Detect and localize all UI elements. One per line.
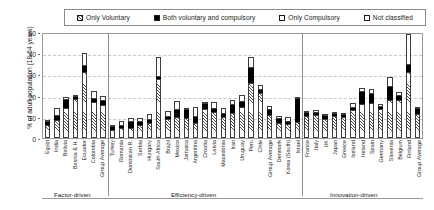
stacked-bar[interactable] (350, 103, 356, 138)
stacked-bar[interactable] (156, 57, 162, 138)
stacked-bar[interactable] (54, 108, 60, 138)
bar-cell (108, 34, 117, 138)
stacked-bar[interactable] (221, 108, 227, 138)
x-tick-cell: Chile (256, 140, 265, 184)
bar-cell (219, 34, 228, 138)
stacked-bar[interactable] (387, 77, 393, 138)
stacked-bar[interactable] (378, 104, 384, 138)
bar-cell (200, 34, 209, 138)
bar-segment-voluntary (82, 72, 88, 138)
stacked-bar[interactable] (341, 113, 347, 138)
x-tick-cell: Jamaica (181, 140, 190, 184)
x-tick-cell: South Africa (154, 140, 163, 184)
x-tick-label: Belgium (397, 140, 403, 160)
bar-segment-both (295, 99, 301, 122)
bar-segment-voluntary (174, 117, 180, 138)
stacked-bar[interactable] (322, 114, 328, 138)
stacked-bar[interactable] (137, 118, 143, 138)
x-tick-label: Hungary (146, 140, 152, 161)
bar-segment-notclass (82, 53, 88, 66)
legend-item-both[interactable]: Both voluntary and compulsory (154, 14, 255, 21)
bar-segment-voluntary (350, 110, 356, 138)
stacked-bar[interactable] (147, 114, 153, 138)
x-tick-label: Colombia (90, 140, 96, 163)
stacked-bar[interactable] (415, 107, 421, 138)
stacked-bar[interactable] (258, 85, 264, 138)
stacked-bar[interactable] (45, 120, 51, 138)
bar-segment-both (184, 110, 190, 117)
stacked-bar[interactable] (230, 100, 236, 138)
bar-segment-voluntary (239, 107, 245, 138)
bar-segment-voluntary (54, 120, 60, 138)
x-tick-cell: Japan (330, 140, 339, 184)
stacked-bar[interactable] (184, 108, 190, 138)
x-tick-cell: Israel (293, 140, 302, 184)
x-tick-cell: Korea (South) (284, 140, 293, 184)
stacked-bar[interactable] (82, 53, 88, 138)
stacked-bar[interactable] (248, 57, 254, 138)
stacked-bar[interactable] (285, 117, 291, 138)
x-tick-label: Romania (118, 140, 124, 162)
bar-cell (358, 34, 367, 138)
x-tick-label: Greece (341, 140, 347, 158)
stacked-bar[interactable] (174, 101, 180, 138)
bar-segment-voluntary (193, 123, 199, 138)
x-tick-cell: Uruguay (237, 140, 246, 184)
empty-square-icon (364, 15, 370, 21)
x-tick-cell: Group Average (98, 140, 107, 184)
y-tick-mark (38, 54, 41, 55)
bar-cell (210, 34, 219, 138)
legend-item-voluntary[interactable]: Only Voluntary (77, 14, 130, 21)
bar-cell (163, 34, 172, 138)
stacked-bar[interactable] (110, 125, 116, 138)
bar-cell (330, 34, 339, 138)
stacked-bar[interactable] (193, 107, 199, 138)
x-tick-label: Bosnia & H. (72, 140, 78, 169)
bar-cell (385, 34, 394, 138)
x-tick-label: Chile (257, 140, 263, 153)
stacked-bar[interactable] (239, 95, 245, 138)
y-axis-ticks: 01020304050 (0, 33, 40, 139)
x-tick-cell: Mexico (172, 140, 181, 184)
x-tick-cell: Belgium (395, 140, 404, 184)
stacked-bar[interactable] (295, 97, 301, 138)
stacked-bar[interactable] (165, 111, 171, 138)
stacked-bar[interactable] (73, 95, 79, 138)
stacked-bar[interactable] (276, 116, 282, 138)
stacked-bar[interactable] (406, 34, 412, 138)
stacked-bar[interactable] (202, 102, 208, 138)
bar-segment-voluntary (313, 115, 319, 138)
stacked-bar[interactable] (63, 97, 69, 138)
stacked-bar[interactable] (313, 110, 319, 138)
y-tick-label: 30 (29, 72, 36, 79)
legend-item-notclass[interactable]: Not classified (364, 14, 413, 21)
stacked-bar[interactable] (359, 88, 365, 138)
x-tick-label: Dominican R. (127, 140, 133, 173)
legend-item-compulsory[interactable]: Only Compulsory (279, 14, 340, 21)
stacked-bar[interactable] (369, 89, 375, 138)
stacked-bar[interactable] (128, 118, 134, 138)
group-label: Innovation-driven (330, 191, 377, 198)
stacked-bar[interactable] (211, 102, 217, 138)
stacked-bar[interactable] (304, 111, 310, 138)
x-tick-cell: Finland (405, 140, 414, 184)
x-tick-label: Croatia (202, 140, 208, 158)
group-band-efficiency-driven: Efficiency-driven (103, 186, 285, 202)
stacked-bar[interactable] (267, 106, 273, 138)
bar-cell (154, 34, 163, 138)
stacked-bar[interactable] (91, 91, 97, 138)
y-tick-mark (38, 97, 41, 98)
plot-area (42, 33, 423, 139)
legend-item-label: Not classified (373, 14, 413, 21)
stacked-bar[interactable] (396, 92, 402, 138)
bar-segment-voluntary (304, 116, 310, 138)
bar-cell (52, 34, 61, 138)
stacked-bar[interactable] (100, 96, 106, 138)
stacked-bar[interactable] (332, 112, 338, 138)
bar-cell (339, 34, 348, 138)
bar-segment-voluntary (369, 103, 375, 138)
stacked-bar[interactable] (119, 121, 125, 138)
x-tick-label: Egypt (44, 140, 50, 154)
x-tick-cell: Latvia (209, 140, 218, 184)
x-tick-label: Italy (313, 140, 319, 150)
